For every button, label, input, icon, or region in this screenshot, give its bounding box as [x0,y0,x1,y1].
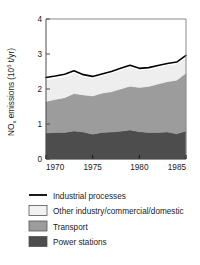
y-axis-title: NOx emissions (106 t/yr) [6,48,17,136]
nox-emissions-figure: 01234 1970197519801985 NOx emissions (10… [0,0,200,265]
y-tick-label: 4 [37,15,42,24]
y-tick-label: 3 [37,50,42,59]
legend-label: Power stations [53,238,107,247]
x-tick-label: 1980 [130,163,149,172]
y-tick-label: 2 [37,85,42,94]
chart-legend: Industrial processesOther industry/comme… [29,192,184,248]
y-axis-title-mid: emissions (10 [7,67,16,120]
y-axis-title-pre: NO [7,124,16,136]
x-tick-label: 1985 [168,163,187,172]
legend-label: Industrial processes [53,192,126,201]
y-axis-title-post: t/yr) [7,48,16,65]
stacked-area-chart: 01234 1970197519801985 NOx emissions (10… [0,0,200,265]
legend-swatch-box [29,221,47,231]
y-tick-label: 0 [37,155,42,164]
legend-swatch-box [29,206,47,216]
y-tick-label: 1 [37,120,42,129]
svg-text:NOx emissions (106 t/yr): NOx emissions (106 t/yr) [6,48,17,136]
area-band-power-stations [46,130,186,159]
legend-label: Other industry/commercial/domestic [53,207,184,216]
x-tick-label: 1975 [84,163,103,172]
x-tick-label: 1970 [46,163,65,172]
legend-swatch-box [29,237,47,247]
legend-label: Transport [53,223,88,232]
